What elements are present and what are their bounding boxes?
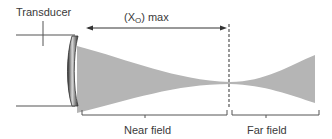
beam-diagram: Transducer (XO) max Near field Far field <box>0 0 332 139</box>
far-field-bracket <box>232 110 319 118</box>
near-field-bracket <box>82 110 227 118</box>
far-field-label: Far field <box>247 124 287 136</box>
transducer-face <box>68 36 79 106</box>
near-field-label: Near field <box>124 124 171 136</box>
transducer-housing <box>16 35 75 106</box>
transducer-label: Transducer <box>16 6 72 18</box>
near-field-length-label: (XO) max <box>124 11 169 25</box>
arrowhead-left-icon <box>86 26 93 31</box>
arrowhead-right-icon <box>220 26 227 31</box>
ultrasound-beam <box>77 46 315 113</box>
